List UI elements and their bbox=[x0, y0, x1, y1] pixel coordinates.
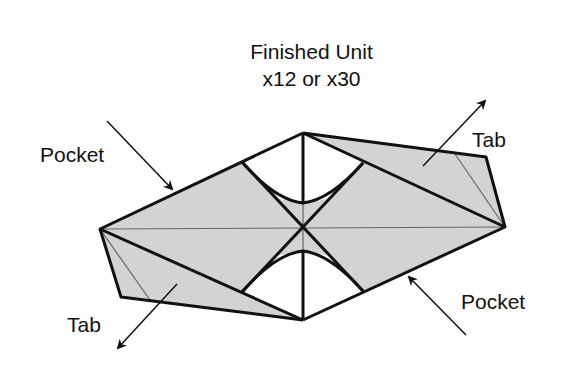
label-pocket-top-left: Pocket bbox=[40, 143, 104, 167]
pocket-top-left-arrow bbox=[107, 121, 172, 189]
label-pocket-bottom-right: Pocket bbox=[461, 290, 525, 314]
label-tab-top-right: Tab bbox=[472, 128, 506, 152]
label-tab-bottom-left: Tab bbox=[67, 313, 101, 337]
pocket-bottom-right-arrow bbox=[409, 277, 466, 335]
